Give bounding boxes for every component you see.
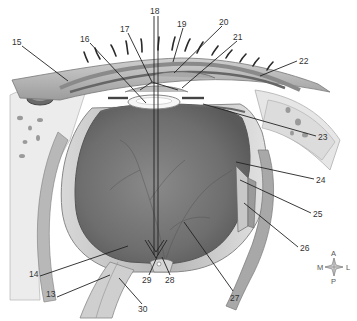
label-22: 22 <box>299 57 308 66</box>
compass-lateral: L <box>346 264 350 272</box>
label-30: 30 <box>138 305 147 314</box>
compass-anterior: A <box>331 250 336 258</box>
label-29: 29 <box>142 276 151 285</box>
label-28: 28 <box>165 276 174 285</box>
label-23: 23 <box>318 133 327 142</box>
label-24: 24 <box>316 176 325 185</box>
eye-anatomy-diagram: 13 14 15 16 17 18 19 20 21 22 23 24 25 2… <box>0 0 357 321</box>
label-27: 27 <box>230 294 239 303</box>
label-20: 20 <box>219 18 228 27</box>
label-13: 13 <box>46 290 55 299</box>
label-14: 14 <box>29 270 38 279</box>
label-25: 25 <box>313 210 322 219</box>
eye-illustration <box>0 0 357 321</box>
label-15: 15 <box>12 38 21 47</box>
label-17: 17 <box>120 25 129 34</box>
eyelid-layers <box>12 58 330 100</box>
compass-medial: M <box>317 264 323 272</box>
label-21: 21 <box>233 33 242 42</box>
label-19: 19 <box>177 20 186 29</box>
label-16: 16 <box>80 35 89 44</box>
compass-posterior: P <box>331 278 336 286</box>
label-26: 26 <box>300 244 309 253</box>
orientation-compass-icon <box>325 258 343 276</box>
label-18: 18 <box>150 7 159 16</box>
